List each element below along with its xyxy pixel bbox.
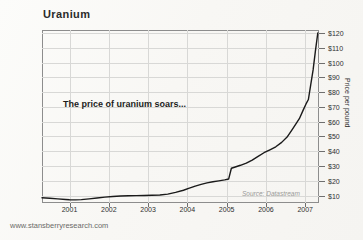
source-note: Source: Datastream — [242, 190, 300, 197]
y-axis-tick-mark — [319, 151, 325, 152]
x-axis-tick-label: 2002 — [101, 206, 117, 213]
x-axis-tick-label: 2005 — [219, 206, 235, 213]
y-axis-tick-label: $90 — [328, 74, 340, 81]
footer-url: www.stansberryresearch.com — [10, 221, 108, 230]
y-axis-tick-label: $110 — [328, 44, 343, 51]
y-axis-tick-mark — [319, 48, 325, 49]
plot-area — [42, 30, 319, 203]
y-axis-tick-mark — [319, 196, 325, 197]
uranium-price-line — [42, 30, 319, 203]
x-axis-tick-label: 2001 — [62, 206, 78, 213]
y-axis-tick-label: $10 — [328, 192, 340, 199]
y-axis-tick-label: $60 — [328, 118, 340, 125]
y-axis-tick-label: $40 — [328, 148, 340, 155]
chart-annotation: The price of uranium soars... — [63, 99, 186, 109]
y-axis-tick-label: $120 — [328, 29, 344, 36]
y-axis-tick-mark — [319, 181, 325, 182]
x-axis-tick-label: 2003 — [140, 206, 156, 213]
y-axis-tick-mark — [319, 107, 325, 108]
y-axis-tick-label: $100 — [328, 59, 344, 66]
y-axis-label: Price per pound — [344, 78, 351, 127]
y-axis-tick-label: $50 — [328, 133, 340, 140]
chart-page: Uranium $10$20$30$40$50$60$70$80$90$100$… — [0, 0, 363, 240]
y-axis-tick-label: $70 — [328, 103, 340, 110]
x-axis-tick-label: 2006 — [258, 206, 274, 213]
y-axis-tick-mark — [319, 92, 325, 93]
y-axis-tick-label: $80 — [328, 89, 340, 96]
y-axis-tick-label: $20 — [328, 177, 340, 184]
x-axis-tick-label: 2007 — [297, 206, 313, 213]
page-title: Uranium — [43, 8, 90, 20]
y-axis-tick-mark — [319, 63, 325, 64]
y-axis-tick-label: $30 — [328, 163, 340, 170]
y-axis-tick-mark — [319, 122, 325, 123]
x-axis-tick-label: 2004 — [180, 206, 196, 213]
y-axis-tick-mark — [319, 77, 325, 78]
y-axis-tick-mark — [319, 136, 325, 137]
y-axis-tick-mark — [319, 33, 325, 34]
y-axis-tick-mark — [319, 166, 325, 167]
